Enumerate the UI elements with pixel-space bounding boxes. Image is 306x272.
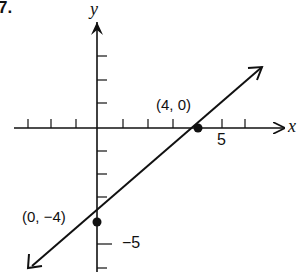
x-tick-label-5: 5 (217, 131, 226, 149)
x-ticks (28, 119, 245, 128)
x-axis-label: x (288, 116, 296, 137)
point-x-intercept (194, 124, 203, 133)
graph-line (32, 67, 262, 266)
graph-figure: 7. y x (4, 0) (0, −4) 5 −5 (0, 0, 306, 272)
y-tick-label-neg5: −5 (122, 234, 140, 252)
point-label-x-intercept: (4, 0) (156, 96, 191, 113)
coordinate-plane (0, 0, 306, 272)
y-ticks (97, 56, 112, 268)
problem-number: 7. (0, 0, 12, 18)
y-axis-label: y (90, 0, 98, 20)
line-arrow-down-icon (28, 254, 42, 268)
point-y-intercept (93, 218, 102, 227)
point-label-y-intercept: (0, −4) (22, 208, 66, 225)
